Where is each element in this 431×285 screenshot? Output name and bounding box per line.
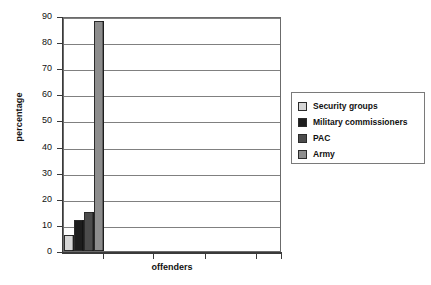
- bar-army: [94, 21, 104, 251]
- chart-figure: percentage 0102030405060708090 offenders…: [0, 0, 431, 285]
- legend-box: Security groupsMilitary commissionersPAC…: [291, 92, 425, 164]
- legend-item: Military commissioners: [298, 114, 424, 130]
- legend-item: PAC: [298, 130, 424, 146]
- y-axis-tick-label: 10: [26, 221, 52, 230]
- x-axis-title: offenders: [63, 262, 281, 272]
- y-axis-tick-label: 30: [26, 169, 52, 178]
- x-axis-tick: [281, 253, 282, 259]
- y-axis-title: percentage: [14, 67, 24, 167]
- x-axis-tick: [205, 253, 206, 259]
- x-axis-tick: [256, 253, 257, 259]
- y-axis-tick-label: 50: [26, 116, 52, 125]
- legend-item-label: Military commissioners: [313, 117, 407, 127]
- y-axis-tick-label: 80: [26, 38, 52, 47]
- y-axis-tick-label: 0: [26, 247, 52, 256]
- bar-security-groups: [64, 235, 74, 251]
- legend-swatch-icon: [298, 134, 307, 143]
- y-axis-tick-label: 60: [26, 90, 52, 99]
- legend-swatch-icon: [298, 118, 307, 127]
- plot-area: [63, 17, 281, 252]
- legend-item-label: PAC: [313, 133, 330, 143]
- legend-item: Army: [298, 146, 424, 162]
- y-axis-tick-label: 90: [26, 12, 52, 21]
- legend-swatch-icon: [298, 102, 307, 111]
- y-axis-tick-label: 20: [26, 195, 52, 204]
- legend-item-label: Army: [313, 149, 335, 159]
- y-axis-tick-label: 70: [26, 64, 52, 73]
- legend-item-label: Security groups: [313, 101, 378, 111]
- legend-item: Security groups: [298, 98, 424, 114]
- bar-military-commissioners: [74, 220, 84, 251]
- bar-group: [64, 18, 280, 251]
- legend-swatch-icon: [298, 150, 307, 159]
- x-axis-line: [62, 252, 282, 254]
- bar-pac: [84, 212, 94, 251]
- x-axis-tick: [153, 253, 154, 259]
- x-axis-tick: [103, 253, 104, 259]
- bar-shading: [102, 21, 104, 251]
- y-axis-tick-label: 40: [26, 143, 52, 152]
